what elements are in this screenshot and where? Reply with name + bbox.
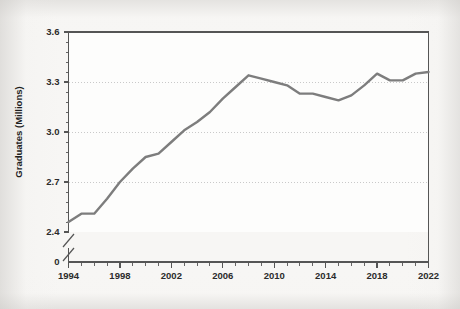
line-chart: 2.42.73.03.33.60199419982002200620102014… [0, 0, 460, 309]
x-tick-label: 2002 [161, 270, 182, 281]
axis-break-slash [63, 234, 74, 247]
y-tick-label: 2.7 [46, 176, 59, 187]
x-tick-label: 1994 [58, 270, 80, 281]
y-ticks: 2.42.73.03.33.6 [46, 26, 68, 237]
x-tick-label: 2010 [264, 270, 285, 281]
x-tick-label: 1998 [109, 270, 130, 281]
y-tick-label: 3.3 [46, 76, 59, 87]
chart-canvas: 2.42.73.03.33.60199419982002200620102014… [0, 0, 460, 309]
y-tick-label: 2.4 [46, 226, 60, 237]
x-tick-label: 2006 [212, 270, 233, 281]
y-zero-label: 0 [54, 256, 59, 267]
x-ticks: 19941998200220062010201420182022 [58, 262, 439, 281]
x-tick-label: 2018 [367, 270, 388, 281]
y-tick-label: 3.0 [46, 126, 59, 137]
x-tick-label: 2022 [418, 270, 439, 281]
x-tick-label: 2014 [315, 270, 337, 281]
y-axis-title: Graduates (Millions) [13, 86, 24, 177]
y-tick-label: 3.6 [46, 26, 59, 37]
